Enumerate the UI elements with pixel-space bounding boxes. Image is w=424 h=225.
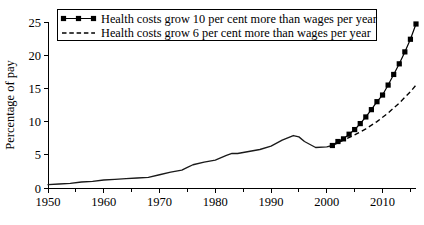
legend-label: Health costs grow 10 per cent more than … [101,12,377,26]
data-point-marker [380,92,385,97]
data-point-marker [413,21,418,26]
series-0 [48,136,332,185]
data-point-marker [374,99,379,104]
y-tick-label: 25 [29,16,42,30]
y-tick-label: 10 [29,115,42,129]
y-axis-title: Percentage of pay [3,59,17,149]
y-tick-label: 20 [29,49,42,63]
data-point-marker [402,49,407,54]
series-line [332,24,416,146]
x-tick-label: 1960 [91,195,116,209]
series-line [48,136,332,185]
data-point-marker [352,127,357,132]
x-tick-label: 1950 [36,195,61,209]
legend-marker-icon [61,16,66,21]
data-point-marker [369,107,374,112]
line-chart: 0510152025 1950196019701980199020002010 … [0,0,424,225]
y-tick-label: 15 [29,82,42,96]
data-point-marker [358,121,363,126]
x-tick-label: 2000 [314,195,339,209]
legend-marker-icon [91,16,96,21]
chart-container: 0510152025 1950196019701980199020002010 … [0,0,424,225]
data-point-marker [363,114,368,119]
data-point-marker [386,82,391,87]
data-point-marker [397,61,402,66]
data-point-marker [408,37,413,42]
y-axis: 0510152025 [29,16,49,196]
chart-legend: Health costs grow 10 per cent more than … [57,9,377,40]
data-point-marker [391,72,396,77]
x-tick-label: 1970 [147,195,172,209]
plot-area [48,21,419,184]
legend-marker-icon [76,16,81,21]
legend-label: Health costs grow 6 per cent more than w… [101,26,371,40]
x-tick-label: 1980 [203,195,228,209]
y-tick-label: 0 [35,182,41,196]
x-axis: 1950196019701980199020002010 [36,188,417,209]
y-tick-label: 5 [35,148,41,162]
x-tick-label: 1990 [259,195,284,209]
x-tick-label: 2010 [370,195,395,209]
